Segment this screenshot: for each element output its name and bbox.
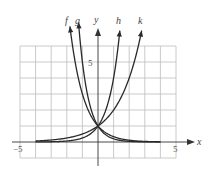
curve-label-g: g [75,15,80,26]
curve-h [36,31,120,142]
curve-label-h: h [116,15,121,26]
y-axis-label: y [93,14,99,25]
curve-label-f: f [65,15,69,26]
x-tick-max: 5 [173,144,178,154]
y-tick-five: 5 [88,58,93,68]
x-tick-min: −5 [13,144,23,154]
y-axis-arrow-icon [95,28,101,36]
x-axis-arrow-icon [187,139,195,145]
exponential-graph: x y −5 5 5 f g h k [0,0,208,172]
curve-label-k: k [138,15,143,26]
arrow-k-icon [138,31,143,37]
x-axis-label: x [196,136,202,147]
curve-f [70,26,160,141]
